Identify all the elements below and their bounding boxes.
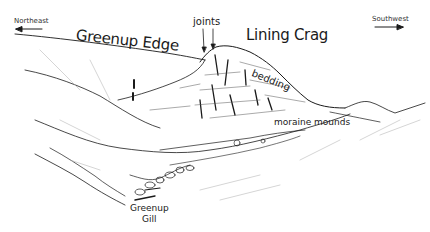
southwest-arrow-icon [375, 25, 403, 30]
southwest-label: Southwest [372, 16, 409, 23]
lining-crag-label: Lining Crag [246, 28, 328, 43]
joints-arrows-icon [202, 29, 215, 52]
northeast-label: Northeast [14, 18, 49, 25]
landscape-sketch [0, 0, 430, 232]
moraine-mounds-label: moraine mounds [274, 118, 350, 127]
joints-label: joints [193, 17, 220, 27]
moraine-mound-line [160, 130, 305, 150]
greenup-gill-label-line1: Greenup [130, 204, 169, 213]
northeast-arrow-icon [16, 27, 42, 32]
greenup-gill-label-line2: Gill [142, 215, 156, 224]
